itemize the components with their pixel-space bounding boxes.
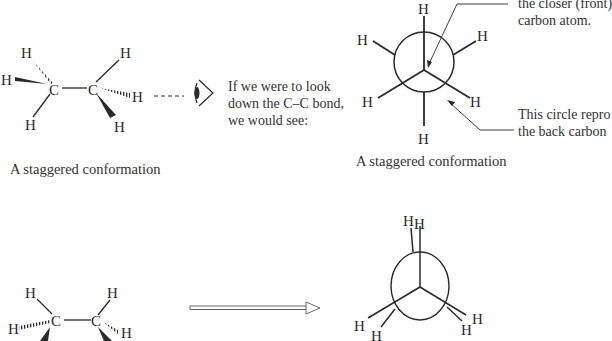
h-atom: H (25, 285, 36, 301)
wedge-bond (98, 327, 112, 341)
h-atom: H (362, 94, 373, 110)
back-bond (447, 307, 462, 321)
bond (37, 299, 52, 314)
wedge-bond (15, 77, 47, 84)
eye-icon (195, 80, 214, 106)
h-atom: H (470, 94, 481, 110)
hashed-bond (19, 320, 50, 330)
h-atom: H (8, 321, 19, 337)
back-carbon-note: This circle repro the back carbon (518, 106, 611, 140)
viewer-note: If we were to look down the C–C bond, we… (228, 78, 344, 129)
front-bond (378, 70, 424, 98)
hashed-bond (100, 88, 130, 98)
back-bond (373, 41, 395, 55)
back-bond (381, 309, 395, 327)
h-atom: H (477, 28, 488, 44)
viewer-note-line: If we were to look (228, 78, 344, 95)
h-atom: H (21, 45, 32, 61)
caption-wedge-staggered: A staggered conformation (10, 161, 161, 178)
h-atom: H (132, 89, 143, 105)
front-note-line: the closer (front) (518, 0, 612, 12)
carbon-atom-left: C (49, 82, 59, 98)
h-atom: H (357, 32, 368, 48)
front-carbon-note: the closer (front) carbon atom. (518, 0, 612, 29)
front-bond (420, 287, 466, 315)
ethane-wedge-structure-top: C C H H H H H H (1, 45, 213, 135)
h-atom: H (403, 213, 414, 229)
bond (33, 94, 50, 117)
bond (98, 300, 110, 315)
caption-newman-staggered: A staggered conformation (356, 153, 507, 170)
conversion-arrow (190, 302, 320, 314)
h-atom: H (114, 119, 125, 135)
front-bond (424, 70, 470, 98)
h-atom: H (1, 72, 12, 88)
carbon-atom-right: C (91, 313, 101, 329)
bond (96, 60, 119, 82)
back-bond (453, 41, 476, 55)
h-atom: H (418, 1, 429, 17)
h-atom: H (25, 117, 36, 133)
h-atom: H (472, 311, 483, 327)
wedge-bond (96, 93, 116, 118)
ethane-wedge-structure-bottom: C C H H H H (8, 285, 132, 341)
back-bond (411, 228, 413, 252)
h-atom: H (121, 325, 132, 341)
carbon-atom-right: C (88, 82, 98, 98)
h-atom: H (418, 131, 429, 147)
front-bond (368, 287, 420, 318)
newman-projection-eclipsed: H H H H H H (354, 213, 483, 341)
h-atom: H (120, 45, 131, 61)
front-note-line: carbon atom. (518, 12, 612, 29)
newman-projection-staggered: H H H H H H (357, 1, 514, 147)
back-note-line: This circle repro (518, 106, 611, 123)
hashed-bond (32, 60, 53, 84)
wedge-bond (40, 327, 50, 341)
h-atom: H (414, 216, 425, 232)
h-atom: H (107, 285, 118, 301)
h-atom: H (354, 318, 365, 334)
hashed-bond (103, 322, 118, 334)
h-atom: H (461, 322, 472, 338)
viewer-note-line: down the C–C bond, (228, 95, 344, 112)
viewer-note-line: we would see: (228, 112, 344, 129)
back-note-line: the back carbon (518, 123, 611, 140)
h-atom: H (371, 328, 382, 341)
carbon-atom-left: C (51, 313, 61, 329)
